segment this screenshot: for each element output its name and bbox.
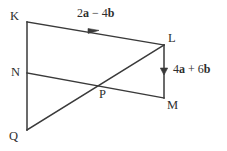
vertex-label-l: L xyxy=(168,32,176,45)
vertex-label-k: K xyxy=(10,10,19,23)
vertex-label-p: P xyxy=(99,88,106,101)
vector-lm-b: b xyxy=(204,62,211,76)
vector-kl-b: b xyxy=(108,6,115,20)
segment-NM xyxy=(27,73,164,98)
vector-diagram: K L N M P Q 2a − 4b 4a + 6b xyxy=(0,0,227,151)
segment-QL xyxy=(27,45,164,130)
vertex-label-q: Q xyxy=(9,130,18,143)
vector-lm-operator: + xyxy=(185,62,198,76)
vertex-label-m: M xyxy=(167,99,178,112)
segment-KL xyxy=(27,22,164,45)
vector-label-kl: 2a − 4b xyxy=(77,7,114,19)
arrowhead-LM-icon xyxy=(160,68,167,75)
vector-kl-operator: − xyxy=(89,6,102,20)
vertex-label-n: N xyxy=(11,66,20,79)
vector-label-lm: 4a + 6b xyxy=(173,63,210,75)
